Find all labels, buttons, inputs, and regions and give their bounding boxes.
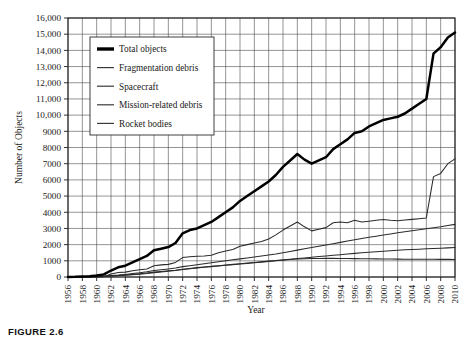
y-axis-ticks: 010002000300040005000600070008000900010,… bbox=[36, 13, 68, 282]
x-tick-label: 1960 bbox=[92, 285, 102, 304]
legend-label: Total objects bbox=[119, 44, 167, 54]
legend-label: Mission-related debris bbox=[119, 100, 203, 110]
x-tick-label: 1986 bbox=[278, 285, 288, 304]
x-tick-label: 1992 bbox=[321, 285, 331, 304]
x-tick-label: 1980 bbox=[235, 285, 245, 304]
y-tick-label: 0 bbox=[56, 272, 61, 282]
orbital-debris-line-chart: 010002000300040005000600070008000900010,… bbox=[0, 0, 473, 330]
x-tick-label: 1990 bbox=[307, 285, 317, 304]
series-line-rocket-bodies bbox=[68, 248, 455, 277]
x-tick-label: 2004 bbox=[407, 285, 417, 304]
x-tick-label: 1956 bbox=[63, 285, 73, 304]
x-tick-label: 2008 bbox=[436, 285, 446, 304]
x-axis-title: Year bbox=[247, 305, 265, 315]
y-tick-label: 1000 bbox=[43, 256, 62, 266]
x-tick-label: 1962 bbox=[106, 285, 116, 304]
legend-label: Fragmentation debris bbox=[119, 63, 199, 73]
x-axis-ticks: 1956195819601962196419661968197019721974… bbox=[63, 277, 460, 303]
y-tick-label: 2000 bbox=[43, 240, 62, 250]
y-tick-label: 7000 bbox=[43, 159, 62, 169]
x-tick-label: 1968 bbox=[149, 285, 159, 304]
y-tick-label: 16,000 bbox=[36, 13, 62, 23]
y-tick-label: 4000 bbox=[43, 208, 62, 218]
x-tick-label: 1964 bbox=[121, 285, 131, 304]
x-tick-label: 1966 bbox=[135, 285, 145, 304]
x-tick-label: 2010 bbox=[450, 285, 460, 304]
y-tick-label: 11,000 bbox=[36, 94, 61, 104]
legend-label: Rocket bodies bbox=[119, 119, 172, 129]
figure-container: 010002000300040005000600070008000900010,… bbox=[0, 0, 473, 348]
chart-legend: Total objectsFragmentation debrisSpacecr… bbox=[90, 37, 214, 135]
legend-label: Spacecraft bbox=[119, 82, 159, 92]
y-tick-label: 9000 bbox=[43, 127, 62, 137]
x-tick-label: 1984 bbox=[264, 285, 274, 304]
x-tick-label: 2006 bbox=[422, 285, 432, 304]
x-tick-label: 2002 bbox=[393, 285, 403, 304]
x-tick-label: 1996 bbox=[350, 285, 360, 304]
y-tick-label: 5000 bbox=[43, 191, 62, 201]
y-tick-label: 12,000 bbox=[36, 78, 62, 88]
x-tick-label: 1970 bbox=[164, 285, 174, 304]
x-tick-label: 1978 bbox=[221, 285, 231, 304]
y-tick-label: 10,000 bbox=[36, 110, 62, 120]
x-axis-title-text: Year bbox=[247, 305, 265, 315]
y-tick-label: 3000 bbox=[43, 224, 62, 234]
y-tick-label: 15,000 bbox=[36, 29, 62, 39]
y-tick-label: 8000 bbox=[43, 143, 62, 153]
x-tick-label: 1982 bbox=[250, 285, 260, 304]
y-tick-label: 6000 bbox=[43, 175, 62, 185]
x-tick-label: 1974 bbox=[192, 285, 202, 304]
x-tick-label: 2000 bbox=[379, 285, 389, 304]
x-tick-label: 1994 bbox=[336, 285, 346, 304]
x-tick-label: 1972 bbox=[178, 285, 188, 304]
y-tick-label: 14,000 bbox=[36, 46, 62, 56]
y-tick-label: 13,000 bbox=[36, 62, 62, 72]
x-tick-label: 1988 bbox=[293, 285, 303, 304]
x-tick-label: 1998 bbox=[364, 285, 374, 304]
y-axis-title-text: Number of Objects bbox=[14, 111, 24, 184]
y-axis-title: Number of Objects bbox=[14, 111, 24, 184]
x-tick-label: 1958 bbox=[78, 285, 88, 304]
figure-caption: FIGURE 2.6 bbox=[8, 326, 64, 337]
x-tick-label: 1976 bbox=[207, 285, 217, 304]
